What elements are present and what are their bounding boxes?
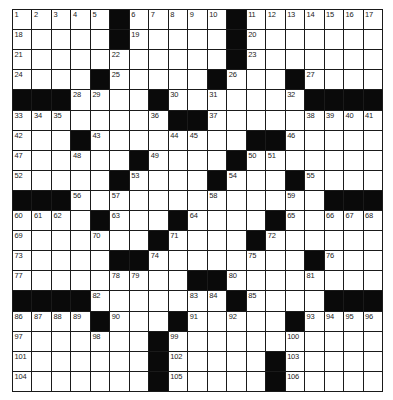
grid-cell[interactable]: 79	[130, 271, 148, 290]
grid-cell[interactable]	[344, 131, 362, 150]
grid-cell[interactable]: 104	[13, 372, 31, 391]
grid-cell[interactable]: 44	[169, 131, 187, 150]
grid-cell[interactable]	[32, 352, 50, 371]
grid-cell[interactable]: 105	[169, 372, 187, 391]
grid-cell[interactable]	[325, 352, 343, 371]
grid-cell[interactable]	[266, 90, 284, 109]
grid-cell[interactable]: 29	[91, 90, 109, 109]
grid-cell[interactable]	[364, 151, 382, 170]
grid-cell[interactable]	[71, 372, 89, 391]
grid-cell[interactable]: 57	[110, 191, 128, 210]
grid-cell[interactable]: 24	[13, 70, 31, 89]
grid-cell[interactable]	[227, 131, 245, 150]
grid-cell[interactable]: 74	[149, 251, 167, 270]
grid-cell[interactable]	[266, 191, 284, 210]
grid-cell[interactable]	[325, 151, 343, 170]
grid-cell[interactable]	[286, 111, 304, 130]
grid-cell[interactable]	[130, 191, 148, 210]
grid-cell[interactable]	[71, 30, 89, 49]
grid-cell[interactable]	[130, 70, 148, 89]
grid-cell[interactable]: 19	[130, 30, 148, 49]
grid-cell[interactable]: 56	[71, 191, 89, 210]
grid-cell[interactable]	[130, 131, 148, 150]
grid-cell[interactable]: 49	[149, 151, 167, 170]
grid-cell[interactable]: 53	[130, 171, 148, 190]
grid-cell[interactable]: 64	[188, 211, 206, 230]
grid-cell[interactable]: 25	[110, 70, 128, 89]
grid-cell[interactable]	[305, 332, 323, 351]
grid-cell[interactable]: 92	[227, 312, 245, 331]
grid-cell[interactable]: 77	[13, 271, 31, 290]
grid-cell[interactable]	[266, 111, 284, 130]
grid-cell[interactable]	[208, 372, 226, 391]
grid-cell[interactable]	[344, 251, 362, 270]
grid-cell[interactable]	[344, 372, 362, 391]
grid-cell[interactable]	[130, 231, 148, 250]
grid-cell[interactable]	[169, 271, 187, 290]
grid-cell[interactable]: 47	[13, 151, 31, 170]
grid-cell[interactable]: 1	[13, 10, 31, 29]
grid-cell[interactable]	[208, 30, 226, 49]
grid-cell[interactable]	[52, 231, 70, 250]
grid-cell[interactable]	[32, 271, 50, 290]
grid-cell[interactable]	[188, 251, 206, 270]
grid-cell[interactable]	[208, 131, 226, 150]
grid-cell[interactable]	[130, 90, 148, 109]
grid-cell[interactable]	[130, 312, 148, 331]
grid-cell[interactable]: 80	[227, 271, 245, 290]
grid-cell[interactable]	[52, 352, 70, 371]
grid-cell[interactable]	[188, 352, 206, 371]
grid-cell[interactable]	[169, 291, 187, 310]
grid-cell[interactable]	[286, 291, 304, 310]
grid-cell[interactable]	[227, 251, 245, 270]
grid-cell[interactable]	[32, 251, 50, 270]
grid-cell[interactable]	[325, 131, 343, 150]
grid-cell[interactable]: 3	[52, 10, 70, 29]
grid-cell[interactable]	[364, 70, 382, 89]
grid-cell[interactable]: 85	[247, 291, 265, 310]
grid-cell[interactable]	[110, 332, 128, 351]
grid-cell[interactable]: 106	[286, 372, 304, 391]
grid-cell[interactable]	[305, 30, 323, 49]
grid-cell[interactable]	[110, 231, 128, 250]
grid-cell[interactable]: 87	[32, 312, 50, 331]
grid-cell[interactable]: 45	[188, 131, 206, 150]
grid-cell[interactable]: 88	[52, 312, 70, 331]
grid-cell[interactable]: 59	[286, 191, 304, 210]
grid-cell[interactable]: 90	[110, 312, 128, 331]
grid-cell[interactable]	[32, 332, 50, 351]
grid-cell[interactable]	[110, 352, 128, 371]
grid-cell[interactable]: 95	[344, 312, 362, 331]
grid-cell[interactable]: 5	[91, 10, 109, 29]
grid-cell[interactable]	[325, 372, 343, 391]
grid-cell[interactable]: 94	[325, 312, 343, 331]
grid-cell[interactable]	[266, 30, 284, 49]
grid-cell[interactable]	[227, 211, 245, 230]
grid-cell[interactable]	[247, 111, 265, 130]
grid-cell[interactable]	[305, 50, 323, 69]
grid-cell[interactable]	[71, 211, 89, 230]
grid-cell[interactable]: 60	[13, 211, 31, 230]
grid-cell[interactable]	[247, 171, 265, 190]
grid-cell[interactable]	[169, 70, 187, 89]
grid-cell[interactable]	[110, 90, 128, 109]
grid-cell[interactable]	[208, 151, 226, 170]
grid-cell[interactable]	[32, 231, 50, 250]
grid-cell[interactable]	[325, 30, 343, 49]
grid-cell[interactable]	[227, 372, 245, 391]
grid-cell[interactable]: 97	[13, 332, 31, 351]
grid-cell[interactable]	[305, 372, 323, 391]
grid-cell[interactable]	[344, 50, 362, 69]
grid-cell[interactable]	[149, 312, 167, 331]
grid-cell[interactable]	[71, 171, 89, 190]
grid-cell[interactable]	[52, 332, 70, 351]
grid-cell[interactable]	[188, 50, 206, 69]
grid-cell[interactable]	[364, 271, 382, 290]
grid-cell[interactable]: 43	[91, 131, 109, 150]
grid-cell[interactable]	[188, 231, 206, 250]
grid-cell[interactable]: 71	[169, 231, 187, 250]
grid-cell[interactable]	[305, 352, 323, 371]
grid-cell[interactable]: 73	[13, 251, 31, 270]
grid-cell[interactable]	[364, 171, 382, 190]
grid-cell[interactable]	[344, 332, 362, 351]
